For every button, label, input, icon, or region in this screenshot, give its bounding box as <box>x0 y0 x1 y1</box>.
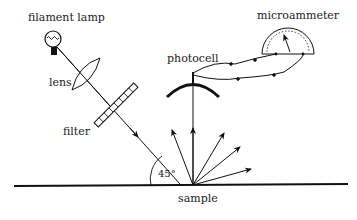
filament-lamp-icon <box>45 31 61 55</box>
filter-label: filter <box>63 125 90 138</box>
apparatus-drawing <box>0 0 357 220</box>
microammeter-label: microammeter <box>257 9 339 22</box>
diagram-canvas: filament lamp lens filter photocell micr… <box>0 0 357 220</box>
lens-label: lens <box>49 76 72 89</box>
sample-label: sample <box>178 192 218 205</box>
sample-surface <box>14 184 348 186</box>
microammeter-icon <box>262 28 314 55</box>
filament-lamp-label: filament lamp <box>28 11 105 24</box>
emitted-electron-arrows <box>172 128 251 185</box>
photocell-label: photocell <box>167 52 219 65</box>
filter-icon <box>94 83 138 127</box>
angle-label: 45° <box>158 168 176 179</box>
lens-icon <box>72 58 100 90</box>
